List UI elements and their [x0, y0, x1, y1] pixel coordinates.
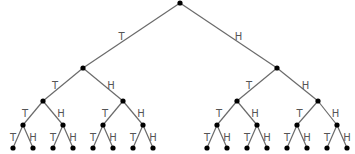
heads-branch-edge: [277, 68, 318, 101]
heads-label: H: [69, 132, 77, 143]
tails-branch-edge: [237, 68, 277, 101]
tree-node: [334, 122, 339, 127]
leaf-node: [50, 145, 55, 150]
coin-toss-tree-diagram: THTHTHTHTHTHTHTHTHTHTHTHTHTHTH: [0, 0, 355, 154]
tree-node: [294, 122, 299, 127]
heads-label: H: [235, 31, 243, 42]
heads-label: H: [343, 132, 351, 143]
heads-label: H: [109, 132, 117, 143]
tails-branch-edge: [43, 68, 83, 101]
heads-branch-edge: [180, 3, 277, 68]
leaf-node: [264, 145, 269, 150]
root-node: [177, 0, 182, 5]
leaf-node: [150, 145, 155, 150]
leaf-node: [204, 145, 209, 150]
tree-node: [60, 122, 65, 127]
heads-label: H: [303, 132, 311, 143]
tails-branch-edge: [83, 3, 180, 68]
tails-label: T: [245, 80, 253, 91]
heads-label: H: [332, 108, 340, 119]
tails-label: T: [129, 132, 137, 143]
tails-label: T: [243, 132, 251, 143]
tree-node: [120, 98, 125, 103]
leaf-node: [30, 145, 35, 150]
tails-label: T: [9, 132, 17, 143]
tails-label: T: [203, 132, 211, 143]
tails-label: T: [295, 108, 303, 119]
leaf-node: [70, 145, 75, 150]
tails-label: T: [21, 108, 29, 119]
tree-node: [100, 122, 105, 127]
tails-label: T: [51, 80, 59, 91]
leaf-node: [344, 145, 349, 150]
tails-label: T: [49, 132, 57, 143]
tree-node: [20, 122, 25, 127]
leaf-node: [110, 145, 115, 150]
tails-label: T: [283, 132, 291, 143]
leaf-node: [244, 145, 249, 150]
tree-node: [40, 98, 45, 103]
tree-node: [214, 122, 219, 127]
tree-node: [80, 65, 85, 70]
heads-label: H: [57, 108, 65, 119]
leaf-node: [304, 145, 309, 150]
tree-node: [234, 98, 239, 103]
tree-node: [315, 98, 320, 103]
leaf-node: [224, 145, 229, 150]
heads-label: H: [107, 80, 115, 91]
tree-node: [140, 122, 145, 127]
heads-label: H: [149, 132, 157, 143]
leaf-node: [284, 145, 289, 150]
tree-node: [274, 65, 279, 70]
heads-label: H: [223, 132, 231, 143]
heads-label: H: [302, 80, 310, 91]
leaf-node: [324, 145, 329, 150]
leaf-node: [90, 145, 95, 150]
tails-label: T: [101, 108, 109, 119]
heads-label: H: [29, 132, 37, 143]
heads-label: H: [137, 108, 145, 119]
tails-label: T: [215, 108, 223, 119]
tails-label: T: [323, 132, 331, 143]
tails-label: T: [117, 31, 125, 42]
heads-branch-edge: [83, 68, 123, 101]
tails-label: T: [89, 132, 97, 143]
leaf-node: [130, 145, 135, 150]
heads-label: H: [251, 108, 259, 119]
leaf-node: [10, 145, 15, 150]
tree-node: [254, 122, 259, 127]
heads-label: H: [263, 132, 271, 143]
